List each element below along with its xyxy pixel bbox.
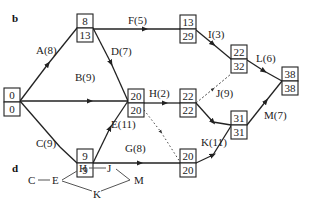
node-late: 29 <box>183 30 195 42</box>
label-m: M(7) <box>264 109 287 122</box>
node-late: 13 <box>80 29 92 41</box>
dummy-edge-n4-n7 <box>144 110 161 132</box>
node-late: 38 <box>285 82 297 94</box>
node-n9: 31 31 <box>231 111 247 139</box>
label-g: G(8) <box>125 142 146 155</box>
node-early: 9 <box>82 150 88 162</box>
node-late: 20 <box>183 164 195 176</box>
label-b: B(9) <box>75 71 96 84</box>
edge-e <box>93 128 110 163</box>
node-early: 20 <box>131 90 143 102</box>
cp-node-j: J <box>107 162 112 174</box>
node-n10: 38 38 <box>282 67 298 95</box>
label-c: C(9) <box>36 137 57 150</box>
label-i: I(3) <box>208 28 225 41</box>
dummy-edge-n6-n8 <box>196 89 213 103</box>
node-early: 22 <box>183 90 194 102</box>
edge-labels: A(8) B(9) C(9) D(7) E(11) F(5) G(8) H(2)… <box>36 14 287 155</box>
edge-j <box>196 103 213 122</box>
node-n6: 22 22 <box>180 89 196 117</box>
label-j: J(9) <box>216 87 233 100</box>
node-n2: 8 13 <box>77 14 93 42</box>
edge-d <box>93 28 111 63</box>
node-n1: 0 0 <box>4 88 20 116</box>
node-n4: 20 20 <box>128 89 144 117</box>
label-l: L(6) <box>256 52 276 65</box>
label-k: K(11) <box>201 136 227 149</box>
node-late: 32 <box>234 60 245 72</box>
node-late: 0 <box>9 103 15 115</box>
activity-network-diagram: b <box>0 0 314 205</box>
edge-k <box>196 155 213 163</box>
node-late: 22 <box>183 104 194 116</box>
label-e: E(11) <box>111 118 136 131</box>
label-a: A(8) <box>36 44 57 57</box>
critical-path-graph: C E H J K M <box>28 162 144 200</box>
node-early: 31 <box>234 112 245 124</box>
node-early: 0 <box>9 89 15 101</box>
node-late: 20 <box>131 104 143 116</box>
label-f: F(5) <box>128 14 147 27</box>
cp-node-c: C <box>28 174 35 186</box>
node-n5: 13 29 <box>180 15 196 43</box>
panel-label-d: d <box>12 162 18 174</box>
node-late: 31 <box>234 126 245 138</box>
cp-node-m: M <box>134 174 144 186</box>
cp-node-e: E <box>52 174 59 186</box>
node-early: 38 <box>285 68 297 80</box>
node-n8: 22 32 <box>231 45 247 73</box>
node-early: 20 <box>183 150 195 162</box>
label-h: H(2) <box>149 87 170 100</box>
node-n7: 20 20 <box>180 149 196 177</box>
label-d: D(7) <box>111 45 132 58</box>
node-early: 13 <box>183 16 195 28</box>
cp-node-k: K <box>93 188 101 200</box>
panel-label-b: b <box>12 12 18 24</box>
node-early: 8 <box>82 15 88 27</box>
node-early: 22 <box>234 46 245 58</box>
cp-node-h: H <box>79 162 87 174</box>
edge-a <box>20 64 48 101</box>
